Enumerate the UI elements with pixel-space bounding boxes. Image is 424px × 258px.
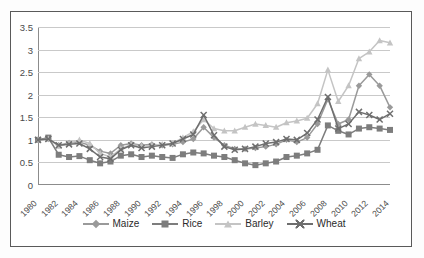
legend-key-square-icon [152,219,178,229]
y-tick-label: 0 [28,180,33,191]
data-point-square [325,122,331,128]
data-point-triangle [345,82,351,88]
data-point-square [180,151,186,157]
y-tick-label: 2.5 [20,67,33,78]
plot-area: 00.511.522.533.5 19801982198419861988199… [38,27,390,185]
data-point-triangle [314,100,320,106]
legend-label: Barley [245,218,273,229]
y-tick-label: 2 [28,89,33,100]
data-point-square [66,154,72,160]
data-point-square [221,154,227,160]
data-point-triangle [376,37,382,43]
data-point-square [242,160,248,166]
y-tick-label: 1 [28,134,33,145]
y-tick-label: 1.5 [20,112,33,123]
data-point-square [366,124,372,130]
legend-key-triangle-icon [215,219,241,229]
data-point-square [304,150,310,156]
series-line-maize [38,74,390,153]
data-point-triangle [356,55,362,61]
data-point-square [356,126,362,132]
data-point-square [76,153,82,159]
legend-label: Rice [182,218,202,229]
data-point-square [159,154,165,160]
legend-item-barley[interactable]: Barley [215,218,273,229]
chart-figure: 00.511.522.533.5 19801982198419861988199… [0,0,424,258]
series-lines [38,27,390,185]
data-point-square [87,157,93,163]
data-point-square [263,160,269,166]
data-point-triangle [325,66,331,72]
data-point-square [315,147,321,153]
chart-legend: MaizeRiceBarleyWheat [38,218,390,229]
legend-item-maize[interactable]: Maize [83,218,140,229]
y-tick-label: 3 [28,44,33,55]
y-tick-label: 0.5 [20,157,33,168]
legend-item-wheat[interactable]: Wheat [287,218,346,229]
legend-label: Maize [113,218,140,229]
data-point-square [97,160,103,166]
data-point-square [128,151,134,157]
legend-item-rice[interactable]: Rice [152,218,202,229]
legend-key-x-icon [287,219,313,229]
data-point-square [283,154,289,160]
data-point-square [273,159,279,165]
data-point-square [377,126,383,132]
legend-key-diamond-icon [83,219,109,229]
data-point-square [211,153,217,159]
data-point-square [170,155,176,161]
data-point-square [139,154,145,160]
data-point-x [377,117,383,123]
data-point-square [252,162,258,168]
data-point-square [118,153,124,159]
y-tick-label: 3.5 [20,22,33,33]
data-point-square [201,150,207,156]
data-point-square [149,153,155,159]
data-point-square [190,149,196,155]
data-point-square [56,152,62,158]
data-point-square [294,153,300,159]
legend-label: Wheat [317,218,346,229]
data-point-square [387,127,393,133]
data-point-square [346,131,352,137]
data-point-square [232,157,238,163]
